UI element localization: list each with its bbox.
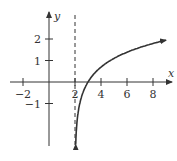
x-tick-label: 6 xyxy=(124,88,131,101)
x-tick-label: 4 xyxy=(98,88,105,101)
x-axis-label: x xyxy=(168,67,175,80)
y-tick-label: 1 xyxy=(34,55,41,68)
x-tick-label: 8 xyxy=(150,88,157,101)
y-tick-label: 2 xyxy=(34,33,41,46)
y-tick-label: −1 xyxy=(25,98,41,111)
y-axis-label: y xyxy=(53,10,61,23)
axis-ticks xyxy=(23,39,153,104)
function-graph: −22468−112 x y xyxy=(0,0,177,161)
tick-labels: −22468−112 xyxy=(15,33,157,111)
